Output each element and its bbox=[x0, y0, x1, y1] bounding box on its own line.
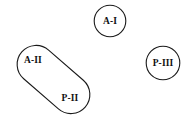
node-p-iii[interactable]: P-III bbox=[146, 46, 180, 80]
diagram-canvas: A-I P-III A-II P-II bbox=[0, 0, 186, 123]
node-a-i[interactable]: A-I bbox=[94, 5, 126, 37]
node-a-ii-p-ii[interactable]: A-II P-II bbox=[9, 38, 97, 122]
node-a-ii-label: A-II bbox=[24, 55, 42, 65]
node-a-ii-p-ii-capsule bbox=[9, 38, 97, 122]
schematic-diagram: A-I P-III A-II P-II bbox=[0, 0, 186, 123]
node-p-iii-label: P-III bbox=[153, 58, 174, 68]
node-p-ii-label: P-II bbox=[62, 93, 79, 103]
node-a-i-label: A-I bbox=[103, 16, 117, 26]
